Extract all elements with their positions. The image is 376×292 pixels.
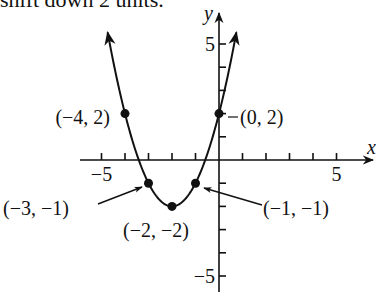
label-point-neg2-neg2: (−2, −2) [123, 219, 189, 242]
arrow-neg3-neg1 [98, 187, 142, 204]
label-point-0-2: (0, 2) [240, 106, 283, 129]
data-point [168, 202, 177, 211]
data-point [144, 179, 153, 188]
x-axis-label: x [366, 136, 376, 158]
label-point-neg4-2: (−4, 2) [55, 106, 110, 129]
parabola-curve [108, 32, 237, 206]
label-point-neg1-neg1: (−1, −1) [263, 197, 329, 220]
y-tick-label: −5 [194, 265, 215, 287]
axes: −555−5xy [80, 2, 376, 292]
label-point-neg3-neg1: (−3, −1) [3, 197, 69, 220]
arrow-neg1-neg1 [204, 188, 262, 205]
x-tick-label: −5 [91, 163, 112, 185]
data-point [191, 179, 200, 188]
point-labels: (−4, 2)(0, 2)(−3, −1)(−2, −2)(−1, −1) [3, 106, 329, 242]
data-point [215, 109, 224, 118]
parabola-graph: −555−5xy (−4, 2)(0, 2)(−3, −1)(−2, −2)(−… [0, 0, 376, 292]
parabola-path [108, 32, 237, 206]
data-point [121, 109, 130, 118]
x-tick-label: 5 [332, 163, 342, 185]
y-axis-label: y [202, 2, 213, 25]
y-tick-label: 5 [205, 33, 215, 55]
